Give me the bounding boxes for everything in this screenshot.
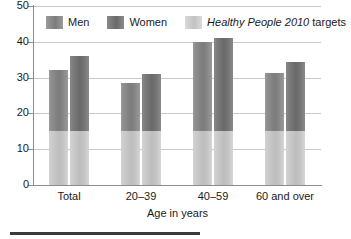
plot-area: [33, 6, 321, 185]
legend-item-men: Men: [46, 16, 89, 29]
bar-segment-target: [70, 131, 89, 185]
bar-segment-target: [286, 131, 305, 185]
x-axis-line: [33, 185, 322, 186]
bar-segment-women: [286, 62, 305, 132]
legend-label-target: Healthy People 2010 targets: [207, 16, 346, 28]
bar-women: [70, 56, 89, 185]
bar-group: [193, 6, 233, 185]
y-axis-tick-label-wrap: 20: [0, 107, 29, 118]
x-axis-tick-label: Total: [33, 190, 105, 202]
legend-label-men: Men: [68, 16, 89, 28]
x-axis-title: Age in years: [33, 207, 322, 219]
chart-legend: MenWomenHealthy People 2010 targets: [46, 13, 351, 31]
y-axis-tick-label-wrap: 50: [0, 0, 29, 11]
legend-item-target: Healthy People 2010 targets: [185, 16, 346, 29]
bar-segment-women: [70, 56, 89, 131]
x-axis-tick-label: 20–39: [105, 190, 177, 202]
bar-segment-women: [214, 38, 233, 131]
bar-segment-women: [142, 74, 161, 131]
bar-group: [49, 6, 89, 185]
bar-segment-men: [121, 83, 140, 131]
bar-segment-men: [193, 42, 212, 132]
bar-group: [121, 6, 161, 185]
bar-segment-men: [49, 70, 68, 131]
y-axis-tick-label: 40: [3, 36, 29, 47]
legend-label-italic: Healthy People 2010: [207, 16, 309, 28]
y-axis-tick-label: 20: [3, 107, 29, 118]
bar-women: [142, 74, 161, 185]
x-axis-tick-label: 60 and over: [249, 190, 321, 202]
y-axis-tick-label: 10: [3, 143, 29, 154]
bottom-divider: [10, 232, 200, 235]
y-axis-tick-label: 50: [3, 0, 29, 11]
y-axis-tick-label-wrap: 40: [0, 36, 29, 47]
y-axis-tick-label: 0: [3, 179, 29, 190]
y-axis-tick-label-wrap: 0: [0, 179, 29, 190]
bar-group: [265, 6, 305, 185]
bar-segment-target: [142, 131, 161, 185]
y-axis-tick-label-wrap: 10: [0, 143, 29, 154]
bar-men: [265, 73, 284, 185]
bar-segment-target: [49, 131, 68, 185]
bar-men: [193, 42, 212, 185]
y-axis-tick-label-wrap: 30: [0, 72, 29, 83]
legend-swatch-men-icon: [46, 16, 63, 29]
legend-label-women: Women: [129, 16, 167, 28]
bar-men: [121, 83, 140, 185]
x-axis-tick-label: 40–59: [177, 190, 249, 202]
legend-item-women: Women: [107, 16, 167, 29]
bar-segment-target: [214, 131, 233, 185]
bar-segment-target: [265, 131, 284, 185]
bar-women: [214, 38, 233, 185]
y-axis-tick-label: 30: [3, 72, 29, 83]
legend-swatch-target-icon: [185, 16, 202, 29]
bar-segment-target: [121, 131, 140, 185]
bar-women: [286, 62, 305, 186]
legend-swatch-women-icon: [107, 16, 124, 29]
bar-segment-men: [265, 73, 284, 131]
bar-men: [49, 70, 68, 185]
bar-segment-target: [193, 131, 212, 185]
